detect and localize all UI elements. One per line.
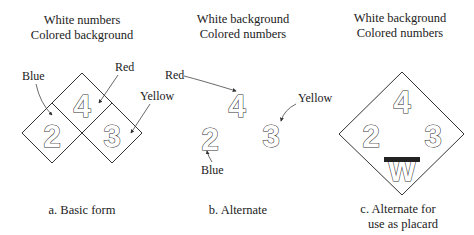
panel-a-header-line2: Colored background	[31, 28, 134, 42]
number-2-left: 2	[362, 119, 379, 154]
w-strikethrough-bar	[384, 157, 420, 162]
leader-red	[184, 76, 236, 91]
panel-c-caption-line2: use as placard	[368, 217, 439, 231]
label-blue: Blue	[22, 69, 45, 83]
panel-b-header-line2: Colored numbers	[200, 27, 287, 41]
number-2-left: 2	[201, 122, 218, 157]
hazard-diamond-figure: White numbers Colored background 4 2 3 B…	[0, 0, 474, 235]
panel-a-header-line1: White numbers	[44, 13, 121, 27]
label-red: Red	[165, 68, 184, 82]
label-yellow: Yellow	[140, 89, 174, 103]
panel-c-header-line1: White background	[354, 11, 447, 25]
number-4-top: 4	[228, 89, 246, 124]
number-3-right: 3	[262, 119, 279, 154]
number-4-top: 4	[393, 85, 411, 120]
panel-a-caption: a. Basic form	[49, 203, 116, 217]
panel-c-placard: White background Colored numbers 4 2 3 W…	[339, 11, 464, 231]
number-2-left: 2	[43, 119, 60, 154]
panel-c-caption-line1: c. Alternate for	[360, 202, 436, 216]
label-yellow: Yellow	[298, 91, 332, 105]
leader-yellow	[281, 104, 296, 121]
panel-c-header-line2: Colored numbers	[357, 26, 444, 40]
label-red: Red	[115, 60, 134, 74]
number-4-top: 4	[73, 89, 91, 124]
panel-b-header-line1: White background	[197, 12, 290, 26]
panel-a-basic-form: White numbers Colored background 4 2 3 B…	[22, 13, 174, 217]
panel-b-alternate: White background Colored numbers 4 2 3 R…	[165, 12, 332, 217]
number-3-right: 3	[424, 119, 441, 154]
number-3-right: 3	[103, 119, 120, 154]
label-blue: Blue	[201, 163, 224, 177]
panel-b-caption: b. Alternate	[209, 203, 268, 217]
leader-yellow	[131, 104, 150, 133]
